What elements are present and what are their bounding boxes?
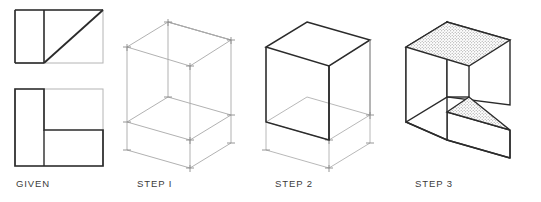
step1-isometric-construction-box — [123, 19, 235, 172]
caption-step-2: STEP 2 — [275, 178, 313, 189]
s1-mid-edge-left — [127, 122, 190, 140]
s2-construction-bottom-right — [329, 143, 370, 168]
given-top-view — [15, 10, 103, 63]
s2-vertex-ticks — [262, 112, 374, 172]
isometric-drawing-steps-figure: GIVEN STEP I STEP 2 STEP 3 — [0, 0, 541, 202]
drawing-canvas — [0, 0, 541, 202]
s1-mid-edge-right — [190, 115, 231, 140]
s2-construction-back-right — [307, 97, 370, 115]
step3-finished-solid — [406, 22, 510, 158]
given-front-view — [15, 89, 103, 166]
s1-bottom-edge-left — [127, 150, 190, 168]
caption-step-1: STEP I — [137, 178, 172, 189]
front-view-outline — [15, 89, 103, 166]
caption-given: GIVEN — [16, 178, 50, 189]
s2-construction-back-left — [266, 97, 307, 122]
s1-bottom-edge-right — [190, 143, 231, 168]
s1-vertex-ticks — [123, 19, 235, 172]
s2-construction-mid-right — [329, 115, 370, 140]
s1-mid-edge-back-right — [168, 97, 231, 115]
top-view-outline — [15, 10, 103, 63]
s1-mid-edge-back-left — [127, 97, 168, 122]
s1-top-edge-back-left — [127, 22, 168, 47]
step2-blocked-in-solid — [262, 22, 374, 172]
s1-top-edge-front-left — [127, 47, 190, 66]
s1-top-edge-back-right — [168, 22, 231, 40]
front-view-l-shape-outline — [15, 89, 103, 166]
s2-construction-bottom-left — [266, 150, 329, 168]
caption-step-3: STEP 3 — [415, 178, 453, 189]
top-view-diagonal-line — [44, 10, 103, 63]
s2-slab-top-face — [266, 22, 370, 66]
s1-top-edge-front-right — [190, 40, 231, 66]
